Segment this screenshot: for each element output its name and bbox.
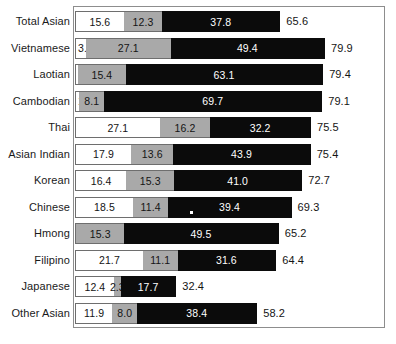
bar-segment-2: 15.3 [126, 170, 174, 191]
bar-segment-1: 11.9 [75, 303, 112, 324]
bar-segment-2: 8.0 [112, 303, 137, 324]
bar-segment-1: 3.5 [75, 38, 86, 59]
segment-value-label: 8.0 [117, 307, 132, 319]
segment-value-label: 13.6 [142, 148, 163, 160]
chart-row: Vietnamese3.527.149.479.9 [0, 38, 396, 59]
segment-value-label: 43.9 [231, 148, 252, 160]
bar-segment-3: 69.7 [104, 91, 322, 112]
chart-row: Chinese18.511.439.469.3 [0, 197, 396, 218]
bar-segment-3: 49.4 [171, 38, 325, 59]
stacked-bar: 18.511.439.4 [75, 197, 292, 218]
stacked-bar: .915.463.1 [75, 64, 323, 85]
stacked-bar: 27.116.232.2 [75, 117, 311, 138]
chart-row: Cambodian1.38.169.779.1 [0, 91, 396, 112]
segment-value-label: 31.6 [216, 254, 237, 266]
bar-segment-1: 15.6 [75, 11, 124, 32]
bar-segment-1: 21.7 [75, 250, 143, 271]
stacked-bar: 11.98.038.4 [75, 303, 257, 324]
category-label-cambodian: Cambodian [0, 91, 70, 112]
category-label-laotian: Laotian [0, 64, 70, 85]
segment-value-label: 15.3 [140, 175, 161, 187]
segment-value-label: 16.2 [175, 122, 196, 134]
bar-segment-1: 17.9 [75, 144, 131, 165]
segment-value-label: 12.4 [84, 281, 105, 293]
stacked-bar: 0.415.349.5 [75, 223, 279, 244]
bar-segment-2: 15.3 [76, 223, 124, 244]
scan-artifact-speck [190, 211, 193, 214]
category-label-thai: Thai [0, 117, 70, 138]
category-label-korean: Korean [0, 170, 70, 191]
segment-value-label: 38.4 [186, 307, 207, 319]
bar-segment-2: 2.3 [114, 276, 121, 297]
segment-value-label: 69.7 [202, 95, 223, 107]
bar-segment-3: 31.6 [178, 250, 277, 271]
stacked-bar: 12.42.317.7 [75, 276, 176, 297]
bar-segment-3: 17.7 [121, 276, 176, 297]
bar-wrapper: 17.913.643.9 [75, 144, 311, 165]
segment-value-label: 27.1 [118, 42, 139, 54]
stacked-bar: 16.415.341.0 [75, 170, 302, 191]
bar-segment-2: 8.1 [79, 91, 104, 112]
segment-value-label: 16.4 [91, 175, 112, 187]
category-label-hmong: Hmong [0, 223, 70, 244]
segment-value-label: 15.4 [91, 69, 112, 81]
segment-value-label: 17.9 [93, 148, 114, 160]
bar-segment-2: 13.6 [131, 144, 174, 165]
category-label-chinese: Chinese [0, 197, 70, 218]
segment-value-label: 15.3 [90, 228, 111, 240]
row-total-label: 79.9 [331, 38, 353, 59]
chart-row: Japanese12.42.317.732.4 [0, 276, 396, 297]
segment-value-label: 17.7 [138, 281, 159, 293]
row-total-label: 79.4 [329, 64, 351, 85]
segment-value-label: 39.4 [219, 201, 240, 213]
chart-row: Hmong0.415.349.565.2 [0, 223, 396, 244]
category-label-japanese: Japanese [0, 276, 70, 297]
segment-value-label: 18.5 [94, 201, 115, 213]
segment-value-label: 11.1 [150, 254, 170, 266]
bar-wrapper: 0.415.349.5 [75, 223, 279, 244]
segment-value-label: 49.4 [237, 42, 258, 54]
stacked-bar: 1.38.169.7 [75, 91, 322, 112]
segment-value-label: 12.3 [133, 16, 154, 28]
bar-segment-3: 37.8 [162, 11, 280, 32]
bar-segment-1: 18.5 [75, 197, 133, 218]
row-total-label: 64.4 [282, 250, 304, 271]
bar-wrapper: 11.98.038.4 [75, 303, 257, 324]
stacked-bar: 3.527.149.4 [75, 38, 325, 59]
bar-wrapper: 18.511.439.4 [75, 197, 292, 218]
bar-segment-2: 11.1 [143, 250, 178, 271]
row-total-label: 65.6 [286, 11, 308, 32]
bar-segment-2: 16.2 [160, 117, 211, 138]
bar-wrapper: 21.711.131.6 [75, 250, 276, 271]
bar-wrapper: 27.116.232.2 [75, 117, 311, 138]
bar-segment-3: 43.9 [173, 144, 310, 165]
chart-row: Thai27.116.232.275.5 [0, 117, 396, 138]
bar-wrapper: .915.463.1 [75, 64, 323, 85]
category-label-vietnamese: Vietnamese [0, 38, 70, 59]
row-total-label: 72.7 [308, 170, 330, 191]
bar-wrapper: 16.415.341.0 [75, 170, 302, 191]
row-total-label: 79.1 [328, 91, 350, 112]
segment-value-label: 32.2 [250, 122, 271, 134]
category-label-other-asian: Other Asian [0, 303, 70, 324]
bar-wrapper: 1.38.169.7 [75, 91, 322, 112]
segment-value-label: 63.1 [214, 69, 235, 81]
bar-segment-2: 11.4 [133, 197, 169, 218]
chart-row: Filipino21.711.131.664.4 [0, 250, 396, 271]
segment-value-label: 27.1 [107, 122, 128, 134]
segment-value-label: 8.1 [84, 95, 99, 107]
bar-wrapper: 15.612.337.8 [75, 11, 280, 32]
row-total-label: 75.5 [317, 117, 339, 138]
segment-value-label: 3.5 [78, 42, 86, 54]
stacked-bar: 17.913.643.9 [75, 144, 311, 165]
chart-row: Asian Indian17.913.643.975.4 [0, 144, 396, 165]
segment-value-label: 49.5 [190, 228, 211, 240]
bar-segment-3: 38.4 [137, 303, 257, 324]
bar-segment-1: 12.4 [75, 276, 114, 297]
bar-segment-2: 12.3 [124, 11, 162, 32]
row-total-label: 58.2 [263, 303, 285, 324]
segment-value-label: 11.4 [141, 201, 161, 213]
bar-segment-1: 16.4 [75, 170, 126, 191]
stacked-bar: 21.711.131.6 [75, 250, 276, 271]
segment-value-label: 37.8 [210, 16, 231, 28]
